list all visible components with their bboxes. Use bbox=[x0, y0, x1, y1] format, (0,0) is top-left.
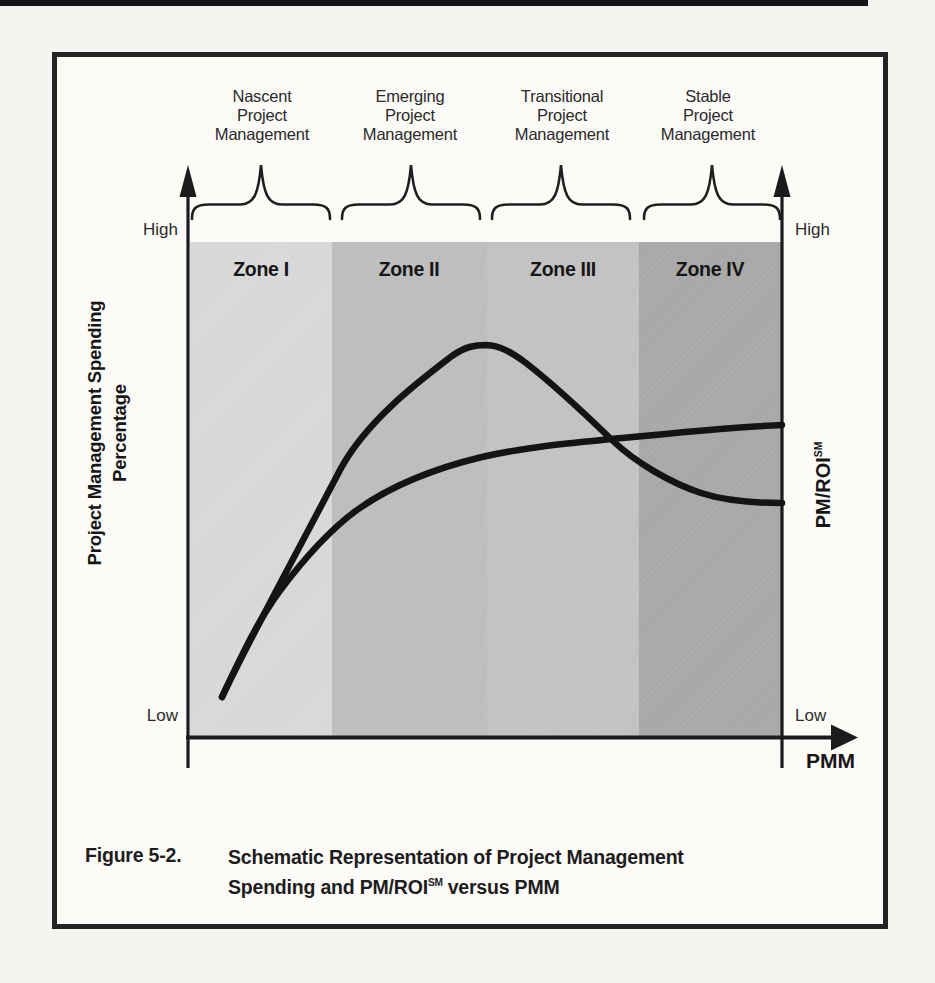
stage-label-line: Project bbox=[482, 106, 642, 125]
left-axis-title-line2: Percentage bbox=[107, 263, 132, 603]
zone-label-4: Zone IV bbox=[645, 258, 775, 281]
page-background: { "stages": [ {"label": "Nascent Project… bbox=[0, 0, 935, 983]
stage-label-line: Management bbox=[628, 125, 788, 144]
figure-caption-line1: Schematic Representation of Project Mana… bbox=[228, 844, 828, 870]
right-axis-title: PM/ROISM bbox=[812, 415, 840, 555]
stage-label-line: Management bbox=[330, 125, 490, 144]
right-axis-title-sup: SM bbox=[813, 442, 824, 458]
x-axis-arrowhead-icon bbox=[831, 725, 858, 751]
left-axis-high-label: High bbox=[108, 220, 178, 240]
x-axis-title: PMM bbox=[806, 749, 855, 773]
figure-caption-label: Figure 5-2. bbox=[85, 844, 181, 867]
stage-label-stable: Stable Project Management bbox=[628, 87, 788, 144]
figure-caption-line2-pre: Spending and PM/ROI bbox=[228, 876, 428, 898]
brace-stable-icon bbox=[644, 165, 780, 219]
stage-label-line: Transitional bbox=[482, 87, 642, 106]
right-axis-low-label: Low bbox=[795, 706, 865, 726]
stage-label-line: Project bbox=[182, 106, 342, 125]
stage-label-line: Management bbox=[482, 125, 642, 144]
right-axis-title-text: PM/ROI bbox=[812, 457, 834, 528]
left-axis-title-line1: Project Management Spending bbox=[82, 263, 107, 603]
figure-caption-line2: Spending and PM/ROISMversus PMM bbox=[228, 870, 828, 900]
y-axis-right-arrowhead-icon bbox=[774, 165, 791, 197]
zone-label-2: Zone II bbox=[344, 258, 474, 281]
stage-label-nascent: Nascent Project Management bbox=[182, 87, 342, 144]
brace-nascent-icon bbox=[192, 165, 330, 219]
y-axis-left-arrowhead-icon bbox=[180, 165, 197, 197]
brace-transitional-icon bbox=[492, 165, 630, 219]
figure-caption-line2-post: versus PMM bbox=[448, 876, 560, 898]
left-axis-title: Project Management Spending Percentage bbox=[82, 263, 134, 603]
zone-label-3: Zone III bbox=[498, 258, 628, 281]
stage-label-line: Project bbox=[628, 106, 788, 125]
stage-label-line: Stable bbox=[628, 87, 788, 106]
figure-caption-line2-sup: SM bbox=[428, 877, 443, 888]
stage-label-transitional: Transitional Project Management bbox=[482, 87, 642, 144]
right-axis-high-label: High bbox=[795, 220, 865, 240]
stage-label-line: Nascent bbox=[182, 87, 342, 106]
stage-label-line: Project bbox=[330, 106, 490, 125]
diagram-canvas bbox=[0, 0, 935, 983]
zone-label-1: Zone I bbox=[196, 258, 326, 281]
brace-emerging-icon bbox=[342, 165, 480, 219]
stage-label-line: Management bbox=[182, 125, 342, 144]
left-axis-low-label: Low bbox=[108, 706, 178, 726]
stage-label-line: Emerging bbox=[330, 87, 490, 106]
stage-label-emerging: Emerging Project Management bbox=[330, 87, 490, 144]
figure-caption-text: Schematic Representation of Project Mana… bbox=[228, 844, 828, 900]
